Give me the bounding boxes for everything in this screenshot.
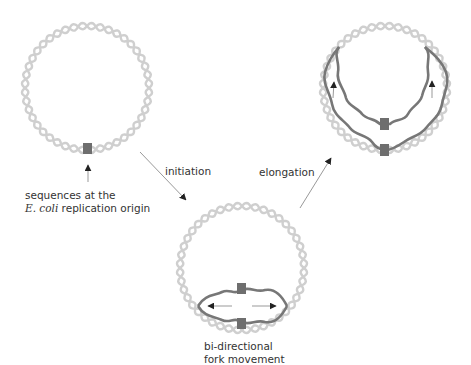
- bubble-caption-line2: fork movement: [204, 353, 285, 365]
- origin-box-top: [237, 283, 246, 294]
- species-name: E. coli: [25, 202, 58, 214]
- origin-box: [83, 143, 92, 154]
- initiation-label: initiation: [165, 165, 211, 178]
- plasmid-origin-stage: [22, 23, 152, 182]
- plasmid-elongation-stage: [320, 23, 450, 156]
- origin-box-outer: [380, 144, 389, 156]
- double-helix-circle: [177, 203, 307, 333]
- origin-caption-rest: replication origin: [58, 202, 150, 214]
- replication-diagram: [0, 0, 471, 365]
- plasmid-bubble-stage: [177, 203, 307, 333]
- origin-caption: sequences at the E. coli replication ori…: [25, 189, 150, 215]
- origin-box-bottom: [237, 318, 246, 329]
- fork-arrow-left: [333, 82, 334, 98]
- origin-caption-line1: sequences at the: [25, 189, 150, 202]
- bubble-caption-line1: bi-directional: [204, 340, 285, 353]
- origin-caption-line2: E. coli replication origin: [25, 202, 150, 215]
- double-helix-circle: [22, 23, 152, 153]
- double-helix-circle: [320, 23, 450, 153]
- origin-box-inner: [380, 118, 389, 130]
- bubble-caption: bi-directional fork movement: [204, 340, 285, 365]
- elongation-label: elongation: [259, 166, 315, 179]
